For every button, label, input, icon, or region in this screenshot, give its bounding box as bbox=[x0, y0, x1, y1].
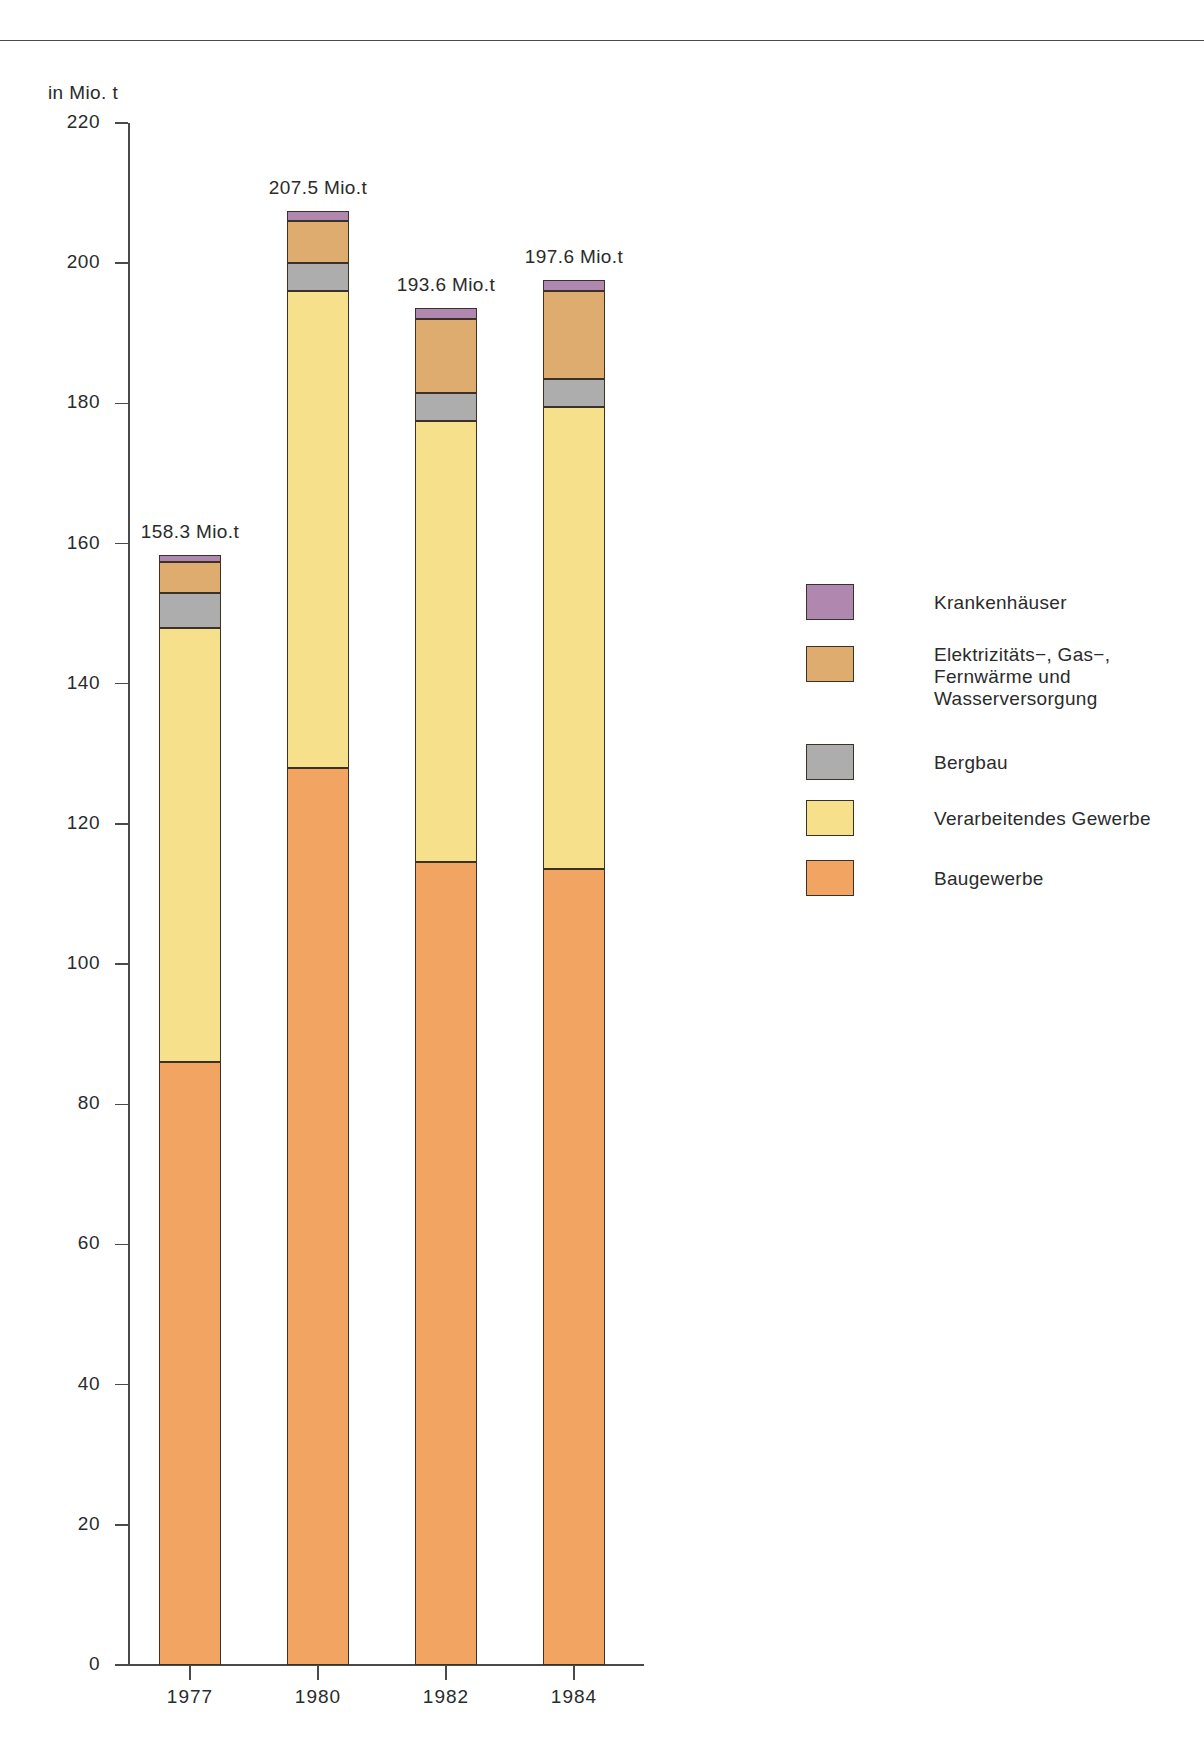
bar-total-label: 193.6 Mio.t bbox=[316, 274, 576, 296]
y-axis-tick bbox=[115, 1664, 128, 1665]
bar-1977: 158.3 Mio.t bbox=[159, 0, 221, 1758]
bar-segment-verarbeitendes bbox=[543, 407, 605, 870]
y-axis-tick bbox=[115, 1384, 128, 1385]
y-axis-tick-label: 140 bbox=[28, 672, 100, 694]
legend-swatch bbox=[806, 800, 854, 836]
legend-label: Baugewerbe bbox=[934, 868, 1044, 890]
bar-segment-verarbeitendes bbox=[415, 421, 477, 863]
y-axis-tick bbox=[115, 1524, 128, 1525]
bar-segment-baugewerbe bbox=[159, 1062, 221, 1665]
bar-segment-elektrizitäts bbox=[543, 291, 605, 379]
y-axis-tick-label: 180 bbox=[28, 391, 100, 413]
legend-swatch bbox=[806, 646, 854, 682]
bar-total-label: 197.6 Mio.t bbox=[444, 246, 704, 268]
y-axis-tick bbox=[115, 262, 128, 263]
y-axis-tick bbox=[115, 1104, 128, 1105]
y-axis-tick-label: 20 bbox=[28, 1513, 100, 1535]
y-axis-tick bbox=[115, 683, 128, 684]
bar-1980: 207.5 Mio.t bbox=[287, 0, 349, 1758]
y-axis-tick-label: 220 bbox=[28, 111, 100, 133]
bar-total-label: 207.5 Mio.t bbox=[188, 177, 448, 199]
bar-segment-baugewerbe bbox=[543, 869, 605, 1665]
chart-plot-area: in Mio. t 020406080100120140160180200220… bbox=[0, 0, 1204, 1758]
bar-segment-krankenhäuser bbox=[543, 280, 605, 291]
bar-segment-baugewerbe bbox=[415, 862, 477, 1665]
bar-segment-elektrizitäts bbox=[287, 221, 349, 263]
y-axis-tick bbox=[115, 1244, 128, 1245]
y-axis-tick-label: 120 bbox=[28, 812, 100, 834]
bar-segment-baugewerbe bbox=[287, 768, 349, 1665]
bar-segment-krankenhäuser bbox=[287, 211, 349, 222]
legend-swatch bbox=[806, 744, 854, 780]
bar-segment-bergbau bbox=[415, 393, 477, 421]
bar-segment-verarbeitendes bbox=[159, 628, 221, 1063]
bar-segment-verarbeitendes bbox=[287, 291, 349, 768]
y-axis-unit-label: in Mio. t bbox=[48, 82, 118, 104]
y-axis-tick bbox=[115, 122, 128, 123]
y-axis-tick bbox=[115, 963, 128, 964]
bar-segment-bergbau bbox=[159, 593, 221, 628]
legend-label: Krankenhäuser bbox=[934, 592, 1067, 614]
y-axis-tick bbox=[115, 823, 128, 824]
bar-segment-krankenhäuser bbox=[159, 555, 221, 562]
bar-1984: 197.6 Mio.t bbox=[543, 0, 605, 1758]
y-axis-line bbox=[128, 123, 130, 1665]
bar-segment-elektrizitäts bbox=[159, 562, 221, 592]
y-axis-tick-label: 100 bbox=[28, 952, 100, 974]
y-axis-tick-label: 0 bbox=[28, 1653, 100, 1675]
legend-label: Verarbeitendes Gewerbe bbox=[934, 808, 1151, 830]
y-axis-tick-label: 80 bbox=[28, 1092, 100, 1114]
bar-total-label: 158.3 Mio.t bbox=[60, 521, 320, 543]
bar-segment-elektrizitäts bbox=[415, 319, 477, 393]
y-axis-tick-label: 200 bbox=[28, 251, 100, 273]
y-axis-tick-label: 60 bbox=[28, 1232, 100, 1254]
legend-swatch bbox=[806, 860, 854, 896]
y-axis-tick bbox=[115, 403, 128, 404]
bar-segment-bergbau bbox=[543, 379, 605, 407]
legend-label: Bergbau bbox=[934, 752, 1008, 774]
bar-segment-krankenhäuser bbox=[415, 308, 477, 319]
legend-label: Elektrizitäts−, Gas−, Fernwärme und Wass… bbox=[934, 644, 1110, 710]
y-axis-tick-label: 40 bbox=[28, 1373, 100, 1395]
legend-swatch bbox=[806, 584, 854, 620]
